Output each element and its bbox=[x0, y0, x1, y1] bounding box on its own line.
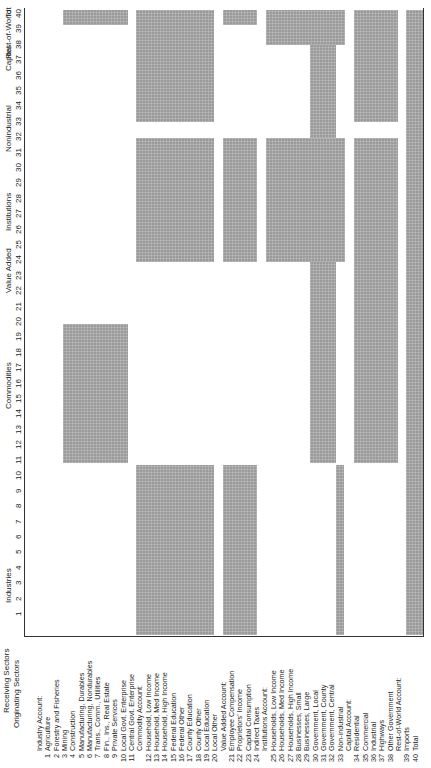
column-number: 26 bbox=[14, 225, 23, 234]
column-number: 10 bbox=[14, 471, 23, 480]
column-number: 28 bbox=[14, 194, 23, 203]
shaded-block-value-added-to-institutions bbox=[223, 138, 257, 262]
column-number: 23 bbox=[14, 271, 23, 280]
column-number: 6 bbox=[14, 535, 23, 539]
row-number: 26 bbox=[278, 754, 286, 766]
column-number: 12 bbox=[14, 440, 23, 449]
column-group-label: Nonindustrial bbox=[4, 105, 13, 152]
column-number: 27 bbox=[14, 209, 23, 218]
column-number: 7 bbox=[14, 519, 23, 523]
column-group-label: Industries bbox=[4, 568, 13, 603]
header-divider-line bbox=[24, 8, 25, 636]
column-number: 29 bbox=[14, 178, 23, 187]
row-number: 33 bbox=[337, 754, 345, 766]
row-name: Government, Central bbox=[327, 684, 336, 751]
column-number: 13 bbox=[14, 425, 23, 434]
column-number: 5 bbox=[14, 550, 23, 554]
row-group-label: Commodity Account: bbox=[135, 685, 144, 751]
row-name: Agriculture bbox=[43, 717, 52, 751]
shaded-block-nonindustrial-strip bbox=[336, 465, 344, 635]
shaded-block-value-added-row-total bbox=[223, 10, 257, 25]
column-number: 14 bbox=[14, 409, 23, 418]
column-number: 22 bbox=[14, 286, 23, 295]
column-group-label: Institutions bbox=[4, 193, 13, 231]
row-name: County Education bbox=[185, 694, 194, 751]
row-number: 38 bbox=[387, 754, 395, 766]
shaded-block-institutions-govt-strip-lower bbox=[310, 262, 336, 463]
column-number: 1 bbox=[14, 612, 23, 616]
row-name: Total bbox=[411, 736, 420, 751]
column-number: 31 bbox=[14, 148, 23, 157]
column-number: 2 bbox=[14, 596, 23, 600]
shaded-block-value-added-from-industries bbox=[223, 465, 257, 635]
shaded-block-industries-to-commodities-capital bbox=[136, 10, 214, 122]
column-number: 36 bbox=[14, 71, 23, 80]
row-label: 29Businesses, Large bbox=[303, 692, 311, 766]
bottom-divider-line bbox=[24, 636, 424, 637]
shaded-block-imports-total bbox=[406, 10, 423, 635]
column-number: 18 bbox=[14, 348, 23, 357]
column-number: 19 bbox=[14, 332, 23, 341]
column-number: 11 bbox=[14, 456, 23, 464]
row-name: Businesses, Large bbox=[302, 692, 311, 751]
column-number: 39 bbox=[14, 24, 23, 33]
row-number: 11 bbox=[128, 754, 136, 766]
row-name: Household, High Income bbox=[160, 672, 169, 751]
row-label: 40Total bbox=[412, 736, 420, 766]
row-name: Private Services bbox=[110, 699, 119, 751]
column-number: 17 bbox=[14, 363, 23, 372]
column-number: 37 bbox=[14, 55, 23, 64]
column-number: 8 bbox=[14, 504, 23, 508]
row-number: 9 bbox=[111, 754, 119, 766]
row-name: Highways bbox=[377, 720, 386, 751]
row-name: Households, Med Income bbox=[277, 669, 286, 751]
column-number: 21 bbox=[14, 302, 23, 311]
shaded-block-institutions-to-capital-row bbox=[266, 10, 345, 45]
shaded-block-institutions-govt-strip bbox=[310, 45, 336, 138]
column-number: 3 bbox=[14, 581, 23, 585]
receiving-sectors-title: Receiving Sectors bbox=[2, 649, 11, 713]
row-label: 9Private Services bbox=[111, 699, 119, 766]
column-number: 15 bbox=[14, 394, 23, 403]
column-number: 16 bbox=[14, 379, 23, 388]
shaded-block-household-gov-to-industries bbox=[136, 465, 214, 635]
row-group-header: Rest-of-World Account: bbox=[395, 677, 403, 766]
column-number: 9 bbox=[14, 488, 23, 492]
row-number: 29 bbox=[303, 754, 311, 766]
shaded-block-capital-upper bbox=[354, 10, 398, 122]
shaded-block-capital-lower bbox=[354, 138, 398, 463]
column-group-label: Tot bbox=[4, 7, 13, 18]
shaded-block-institutions-to-institutions bbox=[266, 138, 345, 262]
row-number: 24 bbox=[253, 754, 261, 766]
column-number: 33 bbox=[14, 117, 23, 126]
row-name: Residential bbox=[352, 715, 361, 751]
column-number: 38 bbox=[14, 40, 23, 49]
originating-sectors-title: Originating Sectors bbox=[12, 660, 21, 728]
shaded-block-commodities-to-industries bbox=[63, 324, 128, 463]
column-number: 34 bbox=[14, 101, 23, 110]
column-number: 25 bbox=[14, 240, 23, 249]
column-number: 35 bbox=[14, 86, 23, 95]
column-number: 32 bbox=[14, 132, 23, 141]
column-number: 24 bbox=[14, 255, 23, 264]
column-number: 30 bbox=[14, 163, 23, 172]
shaded-block-household-gov-to-institutions bbox=[136, 138, 214, 262]
row-name: Local Other bbox=[210, 714, 219, 751]
row-number: 40 bbox=[412, 754, 420, 766]
row-number: 20 bbox=[211, 754, 219, 766]
column-number: 4 bbox=[14, 565, 23, 569]
column-number: 40 bbox=[14, 9, 23, 18]
row-label: 26Households, Med Income bbox=[278, 669, 286, 766]
column-group-label: Commodities bbox=[4, 362, 13, 409]
right-border-line bbox=[423, 8, 424, 636]
column-number: 20 bbox=[14, 317, 23, 326]
row-group-header: Commodity Account: bbox=[136, 685, 144, 766]
shaded-block-total-row-industries bbox=[63, 10, 128, 25]
column-group-label: Value Added bbox=[4, 248, 13, 293]
